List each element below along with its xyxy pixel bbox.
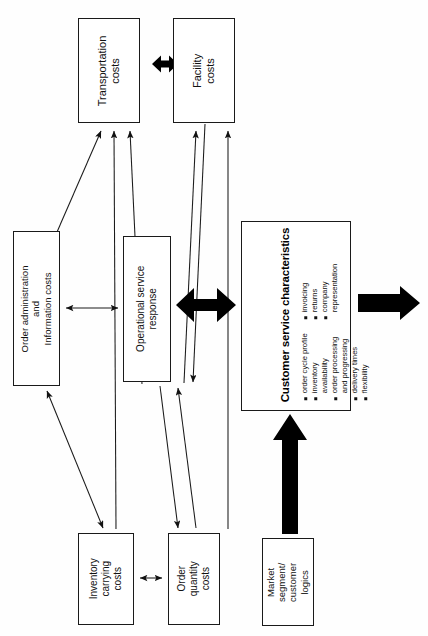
arrow-opservice-customer xyxy=(176,288,236,322)
node-market-segment-customer-logics[interactable]: Market segment/ customer logics xyxy=(262,538,314,626)
customer-service-bullet: flexibility xyxy=(360,333,370,400)
node-order-quantity-costs-label: Order quantity costs xyxy=(176,561,211,596)
customer-service-bullet: availability xyxy=(320,333,330,400)
arrow-market-customer xyxy=(273,414,307,534)
customer-service-bullet: and progressing xyxy=(340,333,350,400)
customer-service-bullet: representation xyxy=(330,264,340,320)
node-customer-service-characteristics[interactable]: Customer service characteristics order c… xyxy=(241,221,351,411)
node-order-administration-costs[interactable]: Order administration and Information cos… xyxy=(13,231,60,386)
customer-service-bullet: company xyxy=(320,264,330,320)
node-operational-service-response-label: Operational service response xyxy=(135,266,159,352)
customer-service-bullets-right: invoicingreturnscompanyrepresentation xyxy=(300,264,370,320)
node-operational-service-response[interactable]: Operational service response xyxy=(123,236,171,382)
node-inventory-carrying-costs-label: Inventory carrying costs xyxy=(88,558,123,599)
customer-service-content: Customer service characteristics order c… xyxy=(277,228,383,405)
customer-service-bullet: returns xyxy=(310,264,320,320)
customer-service-bullet: inventory xyxy=(310,333,320,400)
node-market-segment-customer-logics-label: Market segment/ customer logics xyxy=(266,562,311,601)
customer-service-title: Customer service characteristics xyxy=(279,228,291,403)
customer-service-bullet: delivery times xyxy=(350,333,360,400)
node-facility-costs-label: Facility costs xyxy=(191,53,217,87)
diagram-canvas: Transportation costs Facility costs Orde… xyxy=(0,0,428,636)
customer-service-bullet: order cycle profile xyxy=(300,333,310,400)
customer-service-bullets-left: order cycle profileinventoryavailability… xyxy=(300,333,370,400)
customer-service-bullet: invoicing xyxy=(300,264,310,320)
node-order-quantity-costs[interactable]: Order quantity costs xyxy=(168,533,220,625)
customer-service-bullet: order processing xyxy=(330,333,340,400)
node-transportation-costs[interactable]: Transportation costs xyxy=(78,18,140,123)
node-transportation-costs-label: Transportation costs xyxy=(96,35,122,106)
customer-service-bullet-columns: order cycle profileinventoryavailability… xyxy=(300,264,370,401)
node-facility-costs[interactable]: Facility costs xyxy=(173,18,235,123)
node-order-administration-costs-label: Order administration and Information cos… xyxy=(20,265,54,352)
node-inventory-carrying-costs[interactable]: Inventory carrying costs xyxy=(78,533,134,625)
